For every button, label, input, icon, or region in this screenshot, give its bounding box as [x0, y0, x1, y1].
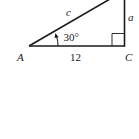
- vertex-a-label: A: [16, 51, 24, 63]
- adjacent-label: 12: [70, 51, 81, 63]
- hypotenuse-label: c: [66, 6, 71, 18]
- angle-label: 30°: [64, 31, 79, 43]
- right-angle-marker: [112, 34, 125, 47]
- triangle-diagram: c a 30° A 12 C: [0, 0, 139, 139]
- angle-arc: [57, 37, 58, 47]
- angle-arrowhead-icon: [55, 33, 59, 38]
- diagram-svg: c a 30° A 12 C: [0, 0, 139, 139]
- vertex-c-label: C: [125, 51, 133, 63]
- opposite-label: a: [128, 11, 134, 23]
